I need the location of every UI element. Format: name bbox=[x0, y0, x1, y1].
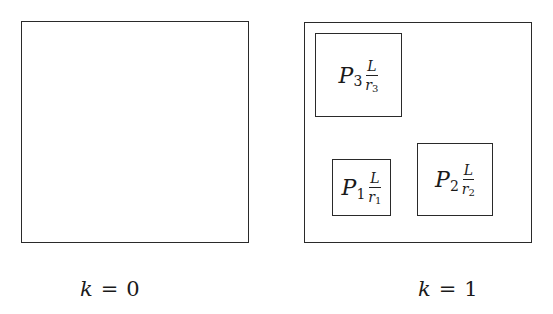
panel-k0-label: k=0 bbox=[80, 277, 140, 301]
subregion-p2-expression: P2 L r2 bbox=[435, 163, 475, 196]
subregion-p1-expression: P1 L r1 bbox=[342, 171, 382, 204]
fraction-denominator: r2 bbox=[462, 180, 475, 196]
panel-k0-square bbox=[21, 21, 249, 243]
fraction-denominator: r1 bbox=[368, 188, 381, 204]
label-eq: = bbox=[439, 277, 457, 301]
label-eq: = bbox=[101, 277, 119, 301]
subregion-p2: P2 L r2 bbox=[417, 143, 493, 216]
fraction: L r2 bbox=[462, 163, 475, 196]
p-index: 3 bbox=[353, 73, 362, 89]
p-symbol: P bbox=[435, 167, 450, 192]
fraction-denominator: r3 bbox=[365, 76, 378, 92]
p-symbol: P bbox=[339, 63, 354, 88]
fraction-numerator: L bbox=[369, 171, 380, 188]
fraction: L r1 bbox=[368, 171, 381, 204]
fraction: L r3 bbox=[365, 59, 378, 92]
subregion-p3-expression: P3 L r3 bbox=[339, 59, 379, 92]
label-var: k bbox=[418, 277, 431, 301]
fraction-numerator: L bbox=[463, 163, 474, 180]
panel-k1-label: k=1 bbox=[418, 277, 478, 301]
denominator-index: 3 bbox=[372, 83, 378, 94]
denominator-index: 2 bbox=[469, 187, 475, 198]
label-var: k bbox=[80, 277, 93, 301]
subregion-p3: P3 L r3 bbox=[315, 33, 402, 117]
denominator-index: 1 bbox=[375, 195, 381, 206]
subregion-p1: P1 L r1 bbox=[332, 159, 391, 216]
label-value: 0 bbox=[126, 277, 139, 301]
fraction-numerator: L bbox=[366, 59, 377, 76]
label-value: 1 bbox=[464, 277, 477, 301]
denominator-var: r bbox=[462, 181, 469, 197]
p-symbol: P bbox=[342, 175, 357, 200]
p-index: 1 bbox=[356, 186, 365, 202]
p-index: 2 bbox=[450, 178, 459, 194]
